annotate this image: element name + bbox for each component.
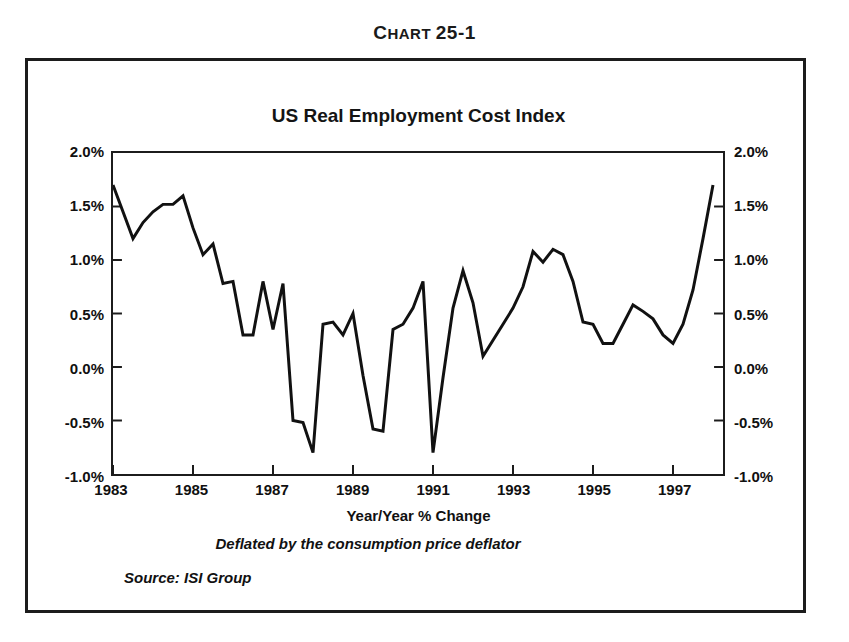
y-tick-right-3: 0.5% [734,307,768,322]
y-tick-left-0: 2.0% [70,144,104,159]
y-tick-right-6: -1.0% [734,469,773,484]
y-tick-right-1: 1.5% [734,198,768,213]
figure-caption-rest: HART [387,25,435,42]
note-source: Source: ISI Group [124,569,252,586]
y-tick-left-2: 1.0% [70,252,104,267]
y-tick-left-4: 0.0% [70,361,104,376]
chart-frame: US Real Employment Cost Index 2.0%1.5%1.… [25,58,806,613]
figure-caption-number: 25-1 [436,22,476,43]
x-tick-2: 1987 [255,482,288,497]
data-series-line [113,185,713,452]
y-axis-right: 2.0%1.5%1.0%0.5%0.0%-0.5%-1.0% [734,151,806,476]
y-tick-right-0: 2.0% [734,144,768,159]
y-axis-left: 2.0%1.5%1.0%0.5%0.0%-0.5%-1.0% [36,151,104,476]
x-axis-caption: Year/Year % Change [28,507,809,524]
x-tick-4: 1991 [416,482,449,497]
x-tick-7: 1997 [658,482,691,497]
y-tick-left-1: 1.5% [70,198,104,213]
y-tick-left-3: 0.5% [70,307,104,322]
x-tick-6: 1995 [577,482,610,497]
y-tick-right-2: 1.0% [734,252,768,267]
x-tick-3: 1989 [336,482,369,497]
tick-marks [113,207,723,475]
y-tick-right-4: 0.0% [734,361,768,376]
y-tick-right-5: -0.5% [734,415,773,430]
figure-caption-lead: C [373,22,387,43]
figure-caption: CHART 25-1 [0,22,849,44]
x-tick-5: 1993 [497,482,530,497]
note-deflator: Deflated by the consumption price deflat… [88,535,648,552]
x-tick-0: 1983 [94,482,127,497]
x-tick-1: 1985 [175,482,208,497]
chart-title: US Real Employment Cost Index [28,105,809,127]
y-tick-left-5: -0.5% [65,415,104,430]
line-plot [113,153,723,474]
plot-area [111,151,725,476]
x-axis: 19831985198719891991199319951997 [111,482,725,504]
